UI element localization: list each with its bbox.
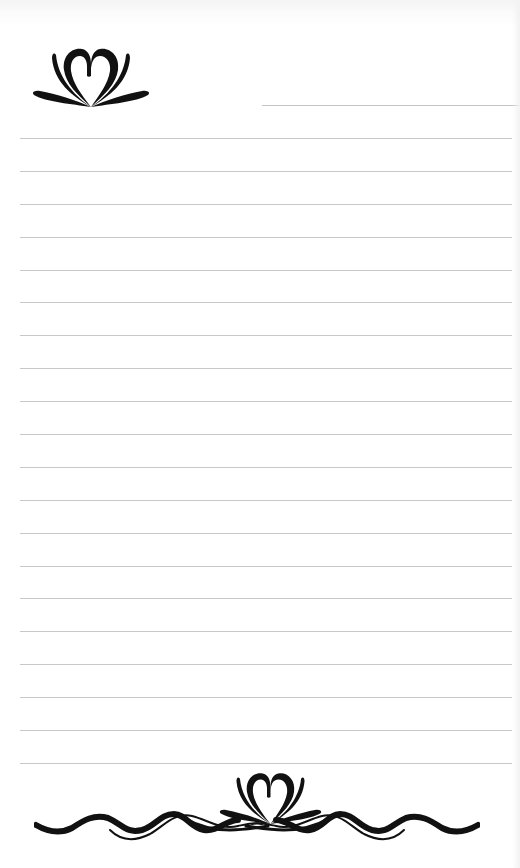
ruled-line xyxy=(20,598,512,599)
ruled-line xyxy=(20,566,512,567)
ruled-line xyxy=(20,763,512,764)
ruled-line xyxy=(20,204,512,205)
ruled-line xyxy=(20,697,512,698)
ruled-line xyxy=(20,302,512,303)
ruled-line xyxy=(20,237,512,238)
ruled-line xyxy=(20,138,512,139)
ruled-line xyxy=(20,467,512,468)
ruled-line xyxy=(20,434,512,435)
ruled-lines xyxy=(0,0,520,868)
ruled-line xyxy=(20,401,512,402)
stationery-page xyxy=(0,0,520,868)
ruled-line xyxy=(20,335,512,336)
ruled-line xyxy=(20,270,512,271)
ruled-line xyxy=(20,500,512,501)
ruled-line xyxy=(20,368,512,369)
ruled-line xyxy=(20,171,512,172)
ruled-line xyxy=(20,533,512,534)
ruled-line xyxy=(20,730,512,731)
ruled-line xyxy=(20,664,512,665)
ruled-line xyxy=(20,631,512,632)
wave-flourish-icon xyxy=(34,800,480,846)
